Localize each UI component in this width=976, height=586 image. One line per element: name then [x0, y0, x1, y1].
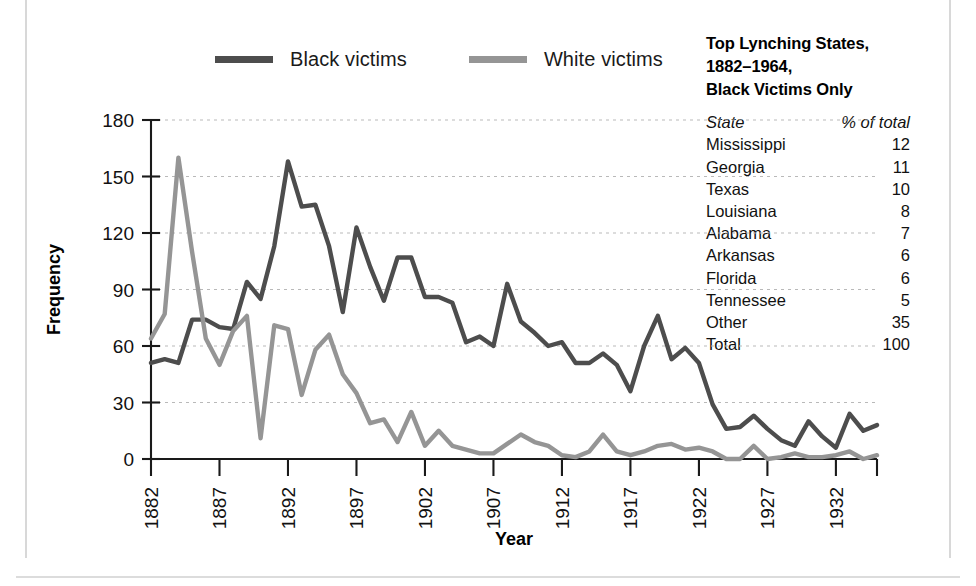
y-tick-label-30: 30: [113, 393, 134, 414]
x-tick-label-1927: 1927: [757, 487, 778, 529]
lynching-frequency-figure: Black victims White victims Top Lynching…: [0, 0, 976, 586]
x-tick-label-1887: 1887: [209, 487, 230, 529]
y-tick-label-180: 180: [102, 110, 134, 131]
y-tick-label-120: 120: [102, 223, 134, 244]
series-line-black-victims: [151, 161, 877, 447]
x-axis-title: Year: [495, 529, 533, 549]
x-tick-label-1882: 1882: [141, 487, 162, 529]
y-axis: 0306090120150180: [102, 110, 160, 470]
y-tick-label-150: 150: [102, 167, 134, 188]
gridlines: [151, 120, 877, 403]
line-chart: 0306090120150180 18821887189218971902190…: [0, 0, 976, 586]
x-axis: 1882188718921897190219071912191719221927…: [141, 459, 877, 529]
x-tick-label-1922: 1922: [689, 487, 710, 529]
x-tick-label-1902: 1902: [415, 487, 436, 529]
y-tick-label-0: 0: [123, 449, 134, 470]
x-tick-label-1917: 1917: [620, 487, 641, 529]
data-series: [151, 158, 877, 459]
y-tick-label-90: 90: [113, 280, 134, 301]
x-tick-label-1912: 1912: [552, 487, 573, 529]
y-tick-label-60: 60: [113, 336, 134, 357]
x-tick-label-1932: 1932: [826, 487, 847, 529]
x-tick-label-1892: 1892: [278, 487, 299, 529]
y-axis-title: Frequency: [44, 244, 64, 335]
x-tick-label-1907: 1907: [483, 487, 504, 529]
x-tick-label-1897: 1897: [346, 487, 367, 529]
